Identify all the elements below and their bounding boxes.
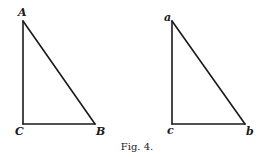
vertex-label-A: A — [17, 6, 27, 19]
vertex-label-c: c — [167, 124, 174, 137]
edge-AB — [23, 21, 95, 124]
vertex-label-a: a — [164, 11, 171, 24]
edge-ab — [172, 21, 245, 124]
triangle-ABC: A C B — [15, 6, 105, 138]
vertex-label-C: C — [15, 125, 24, 138]
figure-caption: Fig. 4. — [121, 141, 153, 152]
figure-canvas: A C B a c b Fig. 4. — [0, 0, 274, 157]
triangle-abc: a c b — [164, 11, 254, 138]
vertex-label-b: b — [246, 125, 254, 138]
vertex-label-B: B — [95, 125, 105, 138]
